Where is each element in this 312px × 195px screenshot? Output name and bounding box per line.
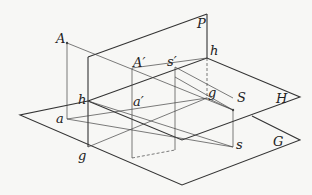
label-H: H: [275, 91, 288, 106]
station-point-construction: [67, 58, 234, 158]
label-s: s: [236, 137, 243, 152]
label-h-right: h: [210, 43, 218, 58]
label-h-left: h: [78, 92, 86, 107]
label-s-prime: s′: [167, 54, 177, 69]
label-S: S: [237, 90, 246, 105]
label-P: P: [196, 16, 206, 31]
label-G: G: [273, 134, 283, 149]
label-a-prime: a′: [133, 94, 144, 109]
label-A: A: [55, 31, 65, 46]
label-g-left: g: [78, 148, 86, 163]
label-a: a: [56, 111, 64, 126]
picture-plane-P: [88, 14, 207, 147]
perspective-projection-diagram: A a A′ a′ s′ S s P h g H G h g: [0, 0, 312, 195]
label-g-right: g: [208, 85, 216, 100]
label-A-prime: A′: [132, 55, 145, 70]
